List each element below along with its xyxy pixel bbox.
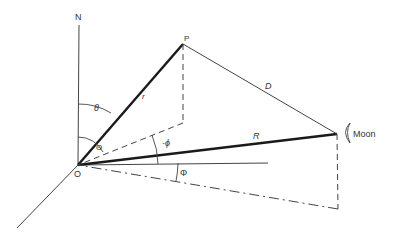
moon-vertical-projection xyxy=(337,134,338,209)
horizontal-reference xyxy=(78,163,268,165)
label-phi-small: -ϕ xyxy=(162,138,170,148)
label-north: N xyxy=(75,12,82,22)
label-p: P xyxy=(184,34,189,43)
label-r: r xyxy=(142,92,145,101)
label-theta-small: θ xyxy=(94,103,99,113)
label-theta-big: Θ xyxy=(96,143,102,152)
moon-icon xyxy=(346,123,351,143)
label-R: R xyxy=(253,131,260,141)
southwest-axis xyxy=(17,165,78,228)
moon-geometry-diagram: N P O Moon r D R θ Θ -ϕ Φ xyxy=(0,0,393,239)
label-moon: Moon xyxy=(353,129,376,139)
north-axis xyxy=(78,25,79,165)
moon-horizontal-projection xyxy=(78,165,338,209)
label-phi-big: Φ xyxy=(180,168,187,178)
phi-small-arc xyxy=(152,135,158,164)
phi-big-arc xyxy=(176,163,178,181)
vector-D xyxy=(183,44,337,134)
label-D: D xyxy=(265,81,272,91)
label-origin: O xyxy=(74,169,81,179)
